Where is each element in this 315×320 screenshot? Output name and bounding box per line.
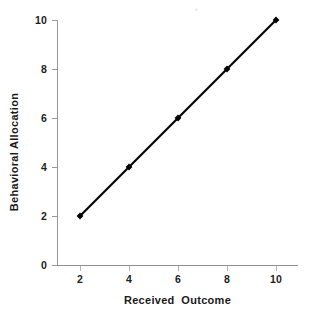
data-point-marker	[273, 17, 280, 24]
y-axis-tick-8	[52, 69, 57, 70]
plot-area	[0, 0, 315, 320]
x-axis-tick-label-4: 4	[109, 274, 149, 285]
x-axis-tick-6	[178, 266, 179, 271]
x-axis-tick-label-6: 6	[158, 274, 198, 285]
y-axis-tick-10	[52, 20, 57, 21]
x-axis-tick-4	[129, 266, 130, 271]
series-markers-group	[77, 17, 280, 220]
y-axis-tick-label-10: 10	[7, 15, 47, 26]
x-axis-tick-10	[276, 266, 277, 271]
y-axis-line	[57, 20, 58, 266]
data-point-marker	[126, 164, 133, 171]
x-axis-tick-label-10: 10	[256, 274, 296, 285]
x-axis-title: Received Outcome	[57, 294, 298, 306]
data-point-marker	[175, 115, 182, 122]
x-axis-tick-label-2: 2	[60, 274, 100, 285]
y-axis-tick-0	[52, 265, 57, 266]
image-artifact-speck	[195, 8, 198, 11]
data-point-marker	[224, 66, 231, 73]
y-axis-tick-label-2: 2	[7, 211, 47, 222]
y-axis-tick-2	[52, 216, 57, 217]
y-axis-tick-4	[52, 167, 57, 168]
y-axis-title: Behavioral Allocation	[8, 93, 20, 211]
x-axis-tick-8	[227, 266, 228, 271]
x-axis-tick-2	[80, 266, 81, 271]
x-axis-tick-label-8: 8	[207, 274, 247, 285]
chart-figure: 10 8 6 4 2 0 2 4 6 8 10 Received Outcome…	[0, 0, 315, 320]
series-line-polyline	[80, 20, 276, 216]
y-axis-tick-6	[52, 118, 57, 119]
y-axis-tick-label-8: 8	[7, 64, 47, 75]
data-point-marker	[77, 213, 84, 220]
y-axis-tick-label-0: 0	[7, 260, 47, 271]
